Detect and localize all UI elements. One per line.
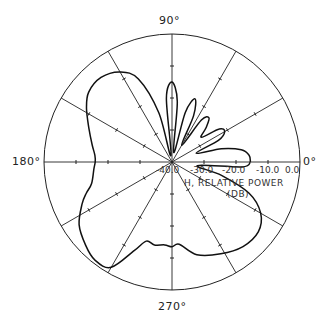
radial-tick-minus10: -10.0 — [256, 165, 279, 175]
radial-tick-0: 0.0 — [285, 165, 299, 175]
angle-label-270: 270° — [158, 300, 187, 313]
radial-tick-minus20: -20.0 — [222, 165, 245, 175]
polar-grid — [44, 34, 300, 290]
radial-axis-unit: (DB) — [227, 189, 249, 199]
angle-label-0: 0° — [303, 155, 317, 168]
radial-axis-label: H, RELATIVE POWER — [184, 178, 284, 188]
angle-label-90: 90° — [159, 14, 180, 27]
radial-tick-minus30: -30.0 — [190, 165, 213, 175]
polar-plot — [0, 0, 331, 324]
radial-tick-minus40: -40.0 — [156, 165, 179, 175]
angle-label-180: 180° — [12, 155, 41, 168]
